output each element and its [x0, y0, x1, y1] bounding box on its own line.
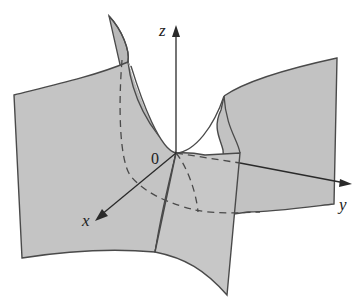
saddle-surface-figure: z y x 0: [0, 0, 357, 297]
origin-label: 0: [151, 150, 159, 167]
z-axis-label: z: [158, 21, 166, 40]
x-axis-label: x: [81, 211, 90, 230]
y-axis-arrowhead: [339, 179, 352, 187]
y-axis-label: y: [337, 195, 347, 214]
